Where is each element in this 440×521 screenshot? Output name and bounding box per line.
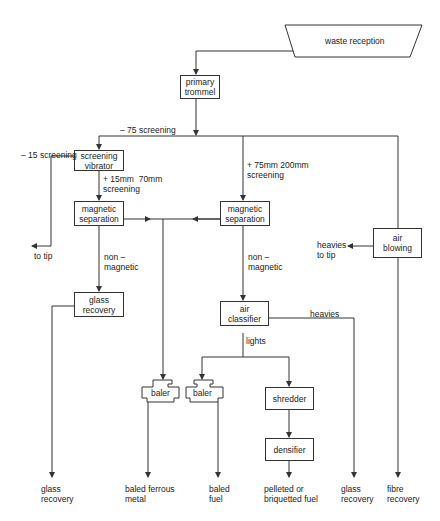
node-primary-trommel: primary trommel [180, 75, 220, 99]
output-glass-recovery-1: glass recovery [41, 484, 74, 504]
node-shredder: shredder [265, 387, 314, 410]
label-non-magnetic-right: non – magnetic [248, 252, 283, 272]
node-waste-reception: waste reception [325, 36, 385, 46]
node-air-classifier: air classifier [220, 301, 269, 326]
label-heavies-to-tip: heavies to tip [317, 240, 346, 260]
node-magnetic-separation-left: magnetic separation [74, 201, 124, 226]
node-baler-left: baler [151, 388, 170, 398]
output-baled-fuel: baled fuel [209, 484, 230, 504]
output-glass-recovery-2: glass recovery [341, 484, 374, 504]
connector-lines [0, 0, 440, 521]
label-75-200-screening: + 75mm 200mm screening [247, 160, 309, 180]
label-75-screening: – 75 screening [120, 125, 176, 135]
label-lights: lights [246, 336, 266, 346]
node-glass-recovery: glass recovery [74, 292, 124, 317]
flow-diagram: waste reception primary trommel screenin… [0, 0, 440, 521]
label-15-70-screening: + 15mm 70mm screening [103, 174, 162, 194]
node-air-blowing: air blowing [373, 228, 422, 258]
output-fibre-recovery: fibre recovery [387, 484, 420, 504]
label-heavies: heavies [310, 309, 339, 319]
node-baler-right: baler [193, 388, 212, 398]
output-pelleted-fuel: pelleted or briquetted fuel [264, 484, 318, 504]
label-15-screening: – 15 screening [21, 150, 77, 160]
node-screening-vibrator: screening vibrator [74, 150, 124, 171]
output-baled-ferrous-metal: baled ferrous metal [125, 484, 175, 504]
label-non-magnetic-left: non – magnetic [104, 252, 139, 272]
label-to-tip: to tip [34, 251, 52, 261]
node-magnetic-separation-right: magnetic separation [220, 201, 270, 226]
node-densifier: densifier [265, 438, 314, 461]
